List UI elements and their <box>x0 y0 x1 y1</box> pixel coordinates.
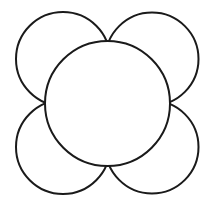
central-circle <box>45 41 170 166</box>
flower-circles-diagram <box>0 0 209 206</box>
